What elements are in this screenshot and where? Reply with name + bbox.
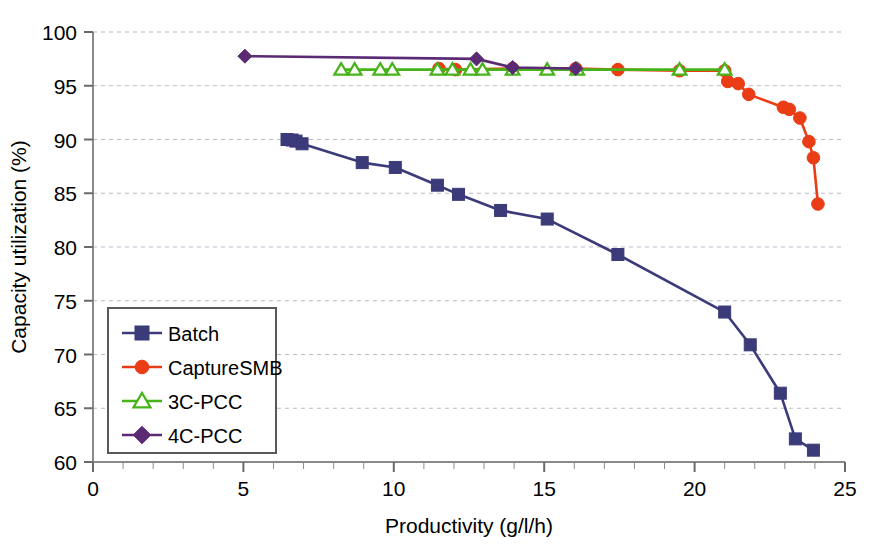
data-point-marker [495,204,507,216]
x-tick-label: 25 [833,477,856,500]
legend-label: Batch [168,323,219,345]
y-tick-label: 90 [54,129,77,152]
x-tick-label: 0 [87,477,99,500]
data-point-marker [356,157,368,169]
data-point-marker [296,138,308,150]
y-axis-tick-labels: 6065707580859095100 [42,21,77,474]
chart-canvas: 6065707580859095100 0510152025 Productiv… [0,0,881,547]
data-point-marker [135,326,149,340]
x-tick-label: 10 [382,477,405,500]
y-axis-title: Capacity utilization (%) [7,140,30,354]
data-point-marker [812,198,825,211]
data-point-marker [774,387,786,399]
data-point-marker [732,77,745,90]
y-axis-ticks [84,32,93,462]
legend-label: CaptureSMB [168,357,283,379]
y-tick-label: 75 [54,290,77,313]
data-point-marker [431,179,443,191]
data-point-marker [794,112,807,125]
data-point-marker [452,188,464,200]
data-point-marker [742,88,755,101]
y-tick-label: 65 [54,397,77,420]
data-point-marker [789,433,801,445]
data-point-marker [783,103,796,116]
data-point-marker [803,135,816,148]
y-tick-label: 85 [54,182,77,205]
data-point-marker [541,213,553,225]
y-tick-label: 100 [42,21,77,44]
data-point-marker [719,306,731,318]
x-axis-minor-ticks [123,462,815,469]
data-point-marker [135,360,149,374]
data-point-marker [807,444,819,456]
x-tick-label: 5 [238,477,250,500]
x-tick-label: 20 [683,477,706,500]
x-tick-label: 15 [533,477,556,500]
x-axis-tick-labels: 0510152025 [87,477,857,500]
legend: BatchCaptureSMB3C-PCC4C-PCC [108,308,283,453]
x-axis-ticks [93,462,845,472]
y-tick-label: 60 [54,451,77,474]
y-tick-label: 70 [54,344,77,367]
y-tick-label: 95 [54,75,77,98]
data-point-marker [389,161,401,173]
legend-label: 3C-PCC [168,391,242,413]
data-point-marker [612,249,624,261]
data-point-marker [744,339,756,351]
data-point-marker [807,151,820,164]
legend-label: 4C-PCC [168,425,242,447]
x-axis-title: Productivity (g/l/h) [385,514,553,537]
chart-figure: 6065707580859095100 0510152025 Productiv… [0,0,881,547]
y-tick-label: 80 [54,236,77,259]
